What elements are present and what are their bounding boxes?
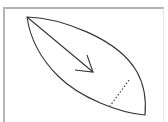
dotted-cross-line bbox=[110, 80, 129, 106]
diagram-canvas bbox=[0, 0, 168, 122]
arrow-icon bbox=[27, 17, 93, 72]
